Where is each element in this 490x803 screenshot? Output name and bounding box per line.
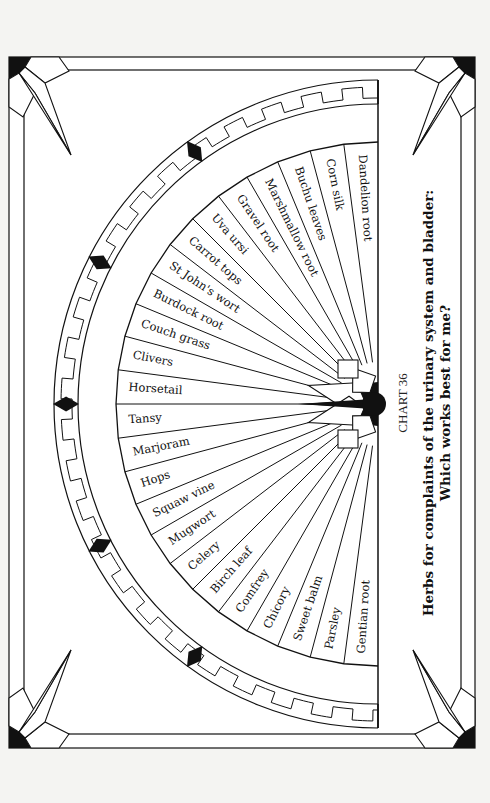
herb-fan-diagram: Dandelion rootCorn silkBuchu leavesMarsh… <box>0 0 490 803</box>
segment-label: Tansy <box>128 410 163 426</box>
chart-title: Herbs for complaints of the urinary syst… <box>420 190 436 617</box>
chart-number: CHART 36 <box>395 373 410 433</box>
chart-subtitle: Which works best for me? <box>437 305 453 502</box>
chart-36-page: Dandelion rootCorn silkBuchu leavesMarsh… <box>0 0 490 803</box>
